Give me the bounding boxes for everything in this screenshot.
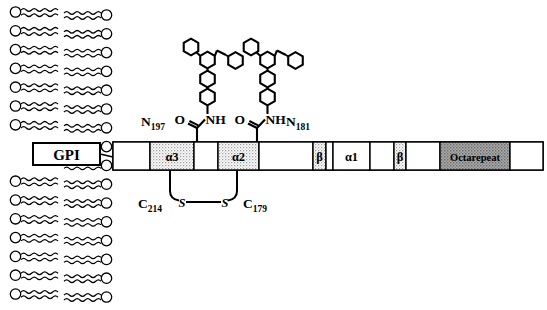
lipid-head bbox=[101, 10, 111, 20]
sulfur-right-label: S bbox=[222, 196, 229, 210]
asn-subscript: 197 bbox=[151, 122, 166, 132]
lipid-head bbox=[10, 251, 20, 261]
glycan-site-n197-ring-stack-upper bbox=[200, 71, 215, 88]
gpi-anchor[interactable]: GPI bbox=[33, 143, 113, 165]
segment-linker-5[interactable] bbox=[406, 142, 440, 170]
segment-c-terminal[interactable] bbox=[113, 142, 150, 170]
glycan-site-n197-phenyl-right bbox=[228, 52, 243, 69]
figure-canvas: GPI α3α2βα1βOctarepeat ONHONHN197N181 SS… bbox=[0, 0, 547, 310]
segment-linker-2[interactable] bbox=[259, 142, 313, 170]
lipid-head bbox=[10, 26, 20, 36]
segment-linker-1[interactable] bbox=[194, 142, 218, 170]
domain-octarepeat-label: Octarepeat bbox=[450, 152, 500, 163]
lipid-head bbox=[101, 29, 111, 39]
lipid-head bbox=[10, 214, 20, 224]
glycan-site-n181-ring-stack-upper bbox=[260, 71, 275, 88]
lipid-head bbox=[10, 270, 20, 280]
lipid-head bbox=[10, 289, 20, 299]
lipid-head bbox=[101, 104, 111, 114]
segment-linker-3[interactable] bbox=[326, 142, 333, 170]
glycan-site-n181-core-ring bbox=[260, 52, 275, 69]
lipid-head bbox=[10, 120, 20, 130]
glycan-site-n197-ring-stack-lower bbox=[200, 89, 215, 106]
domain-alpha2-label: α2 bbox=[232, 150, 245, 164]
glycan-site-n181-phenyl-right bbox=[288, 52, 303, 69]
lipid-head bbox=[101, 254, 111, 264]
asn-subscript: 181 bbox=[296, 122, 311, 132]
lipid-head bbox=[101, 47, 111, 57]
lipid-head bbox=[101, 160, 111, 170]
lipid-head bbox=[10, 44, 20, 54]
lipid-head bbox=[10, 7, 20, 17]
lipid-head bbox=[101, 273, 111, 283]
lipid-head bbox=[101, 179, 111, 189]
glycan-site-n197-phenyl-left bbox=[184, 39, 199, 56]
glycan-site-n197-core-ring bbox=[200, 52, 215, 69]
cys-subscript: 179 bbox=[253, 204, 268, 214]
diagram-svg: GPI α3α2βα1βOctarepeat ONHONHN197N181 SS… bbox=[0, 0, 547, 310]
gpi-label: GPI bbox=[53, 147, 80, 163]
lipid-head bbox=[101, 198, 111, 208]
lipid-head bbox=[10, 82, 20, 92]
lipid-head bbox=[101, 235, 111, 245]
lipid-head bbox=[101, 292, 111, 302]
lipid-head bbox=[10, 176, 20, 186]
lipid-head bbox=[10, 232, 20, 242]
domain-alpha3-label: α3 bbox=[165, 150, 178, 164]
prion-protein-bar: α3α2βα1βOctarepeat bbox=[113, 142, 543, 170]
domain-alpha1-label: α1 bbox=[345, 150, 358, 164]
sulfur-left-label: S bbox=[179, 196, 186, 210]
glycan-site-n181-amide-nh: NH bbox=[266, 112, 287, 127]
lipid-head bbox=[101, 217, 111, 227]
lipid-head bbox=[101, 123, 111, 133]
lipid-head bbox=[101, 85, 111, 95]
domain-beta-2-label: β bbox=[316, 150, 323, 164]
cys-subscript: 214 bbox=[148, 204, 163, 214]
glycan-site-n181-carbonyl-o: O bbox=[234, 112, 245, 127]
lipid-head bbox=[101, 66, 111, 76]
segment-linker-4[interactable] bbox=[370, 142, 394, 170]
glycan-site-n197-amide-nh: NH bbox=[206, 112, 227, 127]
glycan-site-n181-ring-stack-lower bbox=[260, 89, 275, 106]
glycan-site-n181-phenyl-left bbox=[244, 39, 259, 56]
glycan-site-n197-carbonyl-o: O bbox=[174, 112, 185, 127]
lipid-head bbox=[101, 141, 111, 151]
lipid-head bbox=[10, 195, 20, 205]
lipid-head bbox=[10, 101, 20, 111]
lipid-head bbox=[10, 63, 20, 73]
domain-beta-1-label: β bbox=[397, 150, 404, 164]
segment-n-terminal[interactable] bbox=[510, 142, 543, 170]
